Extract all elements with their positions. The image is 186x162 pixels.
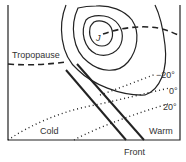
tropopause-label: Tropopause bbox=[12, 50, 60, 60]
isotherms bbox=[8, 74, 170, 140]
frontal-zone-lines bbox=[66, 64, 144, 140]
front-label: Front bbox=[124, 147, 146, 157]
isotherm-minus20-label: −20° bbox=[156, 70, 175, 80]
frame bbox=[8, 5, 180, 140]
isotherm-20-label: 20° bbox=[163, 102, 177, 112]
isotherm-0-label: 0° bbox=[169, 86, 178, 96]
cold-label: Cold bbox=[40, 126, 59, 136]
jet-core-label: J bbox=[95, 33, 101, 43]
warm-label: Warm bbox=[149, 126, 173, 136]
jet-front-diagram: J Tropopause −20° 0° 20° Cold Warm Front bbox=[0, 0, 186, 162]
